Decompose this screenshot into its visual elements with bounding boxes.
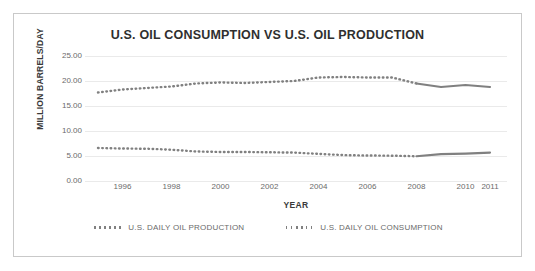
legend-swatch-production [94,226,122,229]
legend-item-consumption[interactable]: U.S. DAILY OIL CONSUMPTION [286,223,442,232]
y-tick-label: 0.00 [42,177,82,185]
x-axis-title: YEAR [85,200,507,210]
series-line [98,148,417,156]
legend-label-consumption: U.S. DAILY OIL CONSUMPTION [320,223,442,232]
y-tick-label: 25.00 [42,52,82,60]
chart-container: U.S. OIL CONSUMPTION VS U.S. OIL PRODUCT… [13,13,522,257]
legend-swatch-consumption [286,226,314,229]
x-tick-label: 2006 [348,183,388,191]
plot-area: MILLION BARRELS/DAY 25.0020.0015.0010.00… [14,14,523,258]
chart-legend: U.S. DAILY OIL PRODUCTION U.S. DAILY OIL… [14,223,523,232]
x-tick-label: 2000 [201,183,241,191]
x-axis-tick-labels: 199619982000200220042006200820102011 [85,183,507,199]
legend-item-production[interactable]: U.S. DAILY OIL PRODUCTION [94,223,244,232]
x-tick-label: 1996 [103,183,143,191]
y-axis-tick-labels: 25.0020.0015.0010.005.000.00 [38,14,82,258]
x-tick-label: 2011 [470,183,510,191]
x-tick-label: 2008 [397,183,437,191]
series-line [98,77,417,93]
y-tick-label: 15.00 [42,102,82,110]
series-line [417,153,491,157]
y-tick-label: 10.00 [42,127,82,135]
y-tick-label: 5.00 [42,152,82,160]
x-tick-label: 2002 [250,183,290,191]
series-line [417,84,491,88]
x-tick-label: 2004 [299,183,339,191]
legend-label-production: U.S. DAILY OIL PRODUCTION [128,223,244,232]
x-tick-label: 1998 [152,183,192,191]
y-tick-label: 20.00 [42,77,82,85]
plot-lines [85,14,507,258]
